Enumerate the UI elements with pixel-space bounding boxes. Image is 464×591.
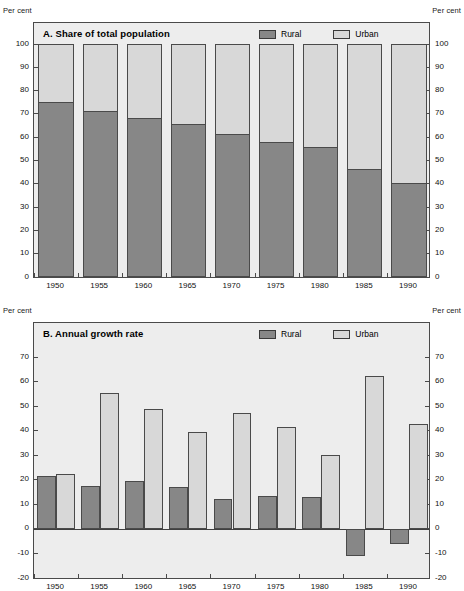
x-axis-tick-label: 1970 [209, 281, 253, 290]
x-axis-tick-label: 1965 [165, 582, 209, 591]
bar-urban [171, 44, 206, 125]
bar-rural [127, 118, 162, 277]
y-axis-tick-label: 50 [0, 401, 29, 410]
y-tick-mark [425, 578, 429, 579]
y-axis-tick-label: 70 [0, 108, 29, 117]
y-axis-tick-label: 40 [0, 178, 29, 187]
bar-urban [233, 413, 252, 529]
x-tick-mark [78, 273, 79, 277]
y-tick-mark [425, 381, 429, 382]
x-axis-tick-label: 1970 [209, 582, 253, 591]
x-tick-mark [166, 273, 167, 277]
y-tick-mark [34, 207, 38, 208]
x-axis-tick-label: 1990 [386, 281, 430, 290]
y-tick-mark [34, 406, 38, 407]
x-axis-tick-label: 1955 [77, 281, 121, 290]
bar-rural [302, 497, 321, 529]
x-tick-mark [210, 273, 211, 277]
y-tick-mark [34, 553, 38, 554]
x-tick-mark [210, 574, 211, 578]
x-axis-tick-label: 1965 [165, 281, 209, 290]
bar-rural [215, 134, 250, 277]
y-axis-tick-label: 40 [435, 425, 444, 434]
y-tick-mark [34, 253, 38, 254]
chart-a-legend: Rural Urban [259, 29, 378, 39]
x-axis-tick-label: 1960 [121, 281, 165, 290]
x-axis-tick-label: 1980 [298, 281, 342, 290]
legend-label-urban: Urban [355, 329, 378, 339]
y-tick-mark [34, 113, 38, 114]
chart-b-legend: Rural Urban [259, 329, 378, 339]
y-axis-tick-label: 0 [435, 523, 439, 532]
bar-rural [347, 169, 382, 277]
zero-line [34, 529, 429, 530]
y-axis-tick-label: 70 [435, 108, 444, 117]
y-axis-tick-label: 60 [435, 132, 444, 141]
bar-urban [56, 474, 75, 529]
bar-urban [100, 393, 119, 529]
y-tick-mark [34, 160, 38, 161]
y-axis-tick-label: 40 [435, 178, 444, 187]
y-axis-tick-label: 10 [435, 248, 444, 257]
y-axis-tick-label: 70 [435, 352, 444, 361]
per-cent-label-mid-right: Per cent [432, 306, 461, 315]
chart-b-title: B. Annual growth rate [43, 328, 143, 339]
legend-swatch-rural-icon [259, 330, 276, 339]
bar-urban [38, 44, 73, 103]
x-axis-tick-label: 1985 [342, 281, 386, 290]
y-axis-tick-label: 80 [0, 85, 29, 94]
y-axis-tick-label: 30 [0, 450, 29, 459]
x-tick-mark [343, 574, 344, 578]
bar-urban [127, 44, 162, 119]
chart-a-panel: A. Share of total population Rural Urban [33, 22, 430, 278]
bar-rural [83, 111, 118, 277]
y-tick-mark [34, 357, 38, 358]
per-cent-label-mid-left: Per cent [3, 306, 32, 315]
x-tick-mark [255, 273, 256, 277]
y-tick-mark [425, 553, 429, 554]
y-tick-mark [34, 381, 38, 382]
bar-urban [259, 44, 294, 143]
bar-rural [391, 183, 426, 277]
legend-swatch-urban-icon [333, 330, 350, 339]
y-tick-mark [34, 230, 38, 231]
x-tick-mark [166, 574, 167, 578]
y-axis-tick-label: -10 [0, 548, 29, 557]
y-axis-tick-label: -10 [435, 548, 447, 557]
x-tick-mark [343, 273, 344, 277]
y-axis-tick-label: 70 [0, 352, 29, 361]
y-tick-mark [425, 406, 429, 407]
bar-urban [303, 44, 338, 148]
bar-urban [409, 424, 428, 529]
x-axis-tick-label: 1980 [298, 582, 342, 591]
x-tick-mark [122, 574, 123, 578]
y-axis-tick-label: 20 [0, 474, 29, 483]
x-tick-mark [34, 273, 35, 277]
y-axis-tick-label: 10 [0, 248, 29, 257]
y-axis-tick-label: 60 [435, 376, 444, 385]
x-tick-mark [387, 574, 388, 578]
bar-rural [346, 529, 365, 556]
y-axis-tick-label: 100 [435, 39, 448, 48]
legend-label-rural: Rural [281, 29, 301, 39]
y-axis-tick-label: 30 [435, 450, 444, 459]
y-axis-tick-label: 50 [0, 155, 29, 164]
y-axis-tick-label: 90 [0, 62, 29, 71]
y-axis-tick-label: 50 [435, 155, 444, 164]
bar-rural [169, 487, 188, 529]
y-axis-tick-label: 30 [0, 202, 29, 211]
legend-swatch-rural-icon [259, 30, 276, 39]
y-tick-mark [34, 67, 38, 68]
y-axis-tick-label: 20 [0, 225, 29, 234]
x-axis-tick-label: 1950 [33, 582, 77, 591]
bar-rural [81, 486, 100, 529]
x-axis-tick-label: 1985 [342, 582, 386, 591]
bar-urban [347, 44, 382, 170]
bar-urban [83, 44, 118, 112]
x-tick-mark [299, 273, 300, 277]
y-axis-tick-label: 60 [0, 376, 29, 385]
bar-rural [390, 529, 409, 544]
bar-urban [188, 432, 207, 529]
bar-urban [215, 44, 250, 135]
x-axis-tick-label: 1975 [254, 281, 298, 290]
